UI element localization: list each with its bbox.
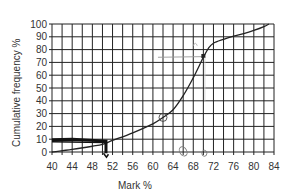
y-axis-label: Cumulative frequency % [11,39,22,147]
y-tick-label: 20 [36,121,48,132]
y-tick-label: 80 [36,44,48,55]
y-tick-label: 10 [36,134,48,145]
x-tick-label: 60 [147,161,159,172]
x-tick-label: 80 [248,161,260,172]
y-tick-label: 0 [41,147,47,158]
x-tick-label: 48 [87,161,99,172]
y-tick-label: 60 [36,70,48,81]
y-tick-label: 90 [36,31,48,42]
y-tick-label: 50 [36,83,48,94]
x-tick-label: 68 [188,161,200,172]
x-tick-labels: 404448525660646872768084 [46,161,280,172]
x-tick-label: 44 [67,161,79,172]
x-tick-label: 84 [268,161,280,172]
y-tick-label: 100 [30,19,47,30]
grid [49,24,274,155]
x-tick-label: 76 [228,161,240,172]
x-tick-label: 40 [46,161,58,172]
y-tick-labels: 0102030405060708090100 [30,19,47,158]
cumulative-frequency-chart: 0102030405060708090100 40444852566064687… [0,0,290,196]
x-tick-label: 64 [168,161,180,172]
x-tick-label: 72 [208,161,220,172]
x-axis-label: Mark % [118,180,152,191]
y-tick-label: 30 [36,108,48,119]
y-tick-label: 40 [36,95,48,106]
x-tick-label: 52 [107,161,119,172]
y-tick-label: 70 [36,57,48,68]
x-tick-label: 56 [127,161,139,172]
